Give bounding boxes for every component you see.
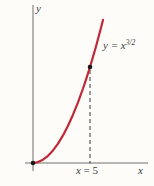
plot-svg: [0, 0, 154, 186]
curve-equation-label: y = x3/2: [103, 40, 135, 51]
x-axis-label: x: [138, 165, 143, 176]
x-equals-5-label: x = 5: [62, 165, 112, 176]
y-axis-label: y: [36, 3, 41, 14]
x-equals-5-value: = 5: [81, 164, 98, 176]
origin-point: [31, 161, 36, 166]
curve-equation-exponent: 3/2: [126, 38, 136, 47]
curve-path: [33, 20, 103, 163]
curve-point: [88, 65, 93, 70]
curve-equation-base: y = x: [103, 39, 126, 51]
figure-canvas: y x y = x3/2 x = 5: [0, 0, 154, 186]
